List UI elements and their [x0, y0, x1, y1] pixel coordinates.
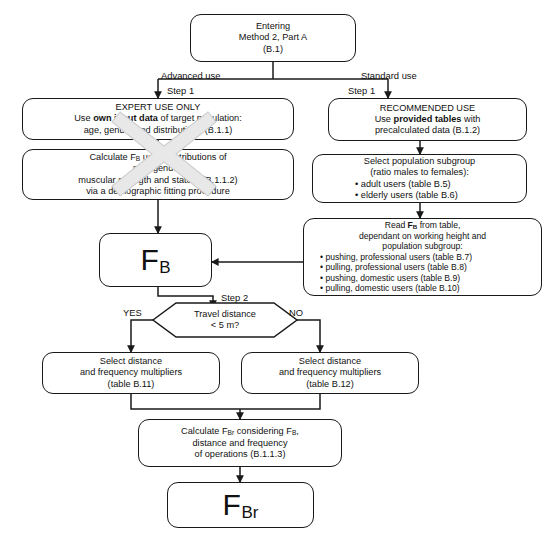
node-expert-title: EXPERT USE ONLY: [116, 102, 201, 113]
edge-no-merge: [240, 394, 320, 409]
node-expert-use: EXPERT USE ONLY Use own input data of ta…: [22, 98, 294, 140]
node-expert-line2-post: of target population:: [158, 113, 242, 123]
node-calculate-fb: Calculate FB using distributions of age,…: [22, 149, 294, 200]
node-no-line1: Select distance: [299, 356, 361, 367]
node-calcfbr-line1-mid: considering F: [234, 426, 292, 436]
node-subgroup-bullet1: • adult users (table B.5): [317, 179, 451, 190]
node-fb-symbol: F: [140, 243, 159, 276]
node-readfb-line2: dependant on working height and: [359, 231, 486, 241]
node-readfb-line1-pre: Read: [385, 220, 408, 230]
node-fb-symbol-wrap: FB: [140, 242, 170, 279]
node-readfb-bullet1: • pushing, professional users (table B.7…: [308, 252, 472, 262]
node-subgroup-bullet2: • elderly users (table B.6): [317, 190, 458, 201]
node-read-fb-table: Read FB from table, dependant on working…: [303, 218, 542, 296]
node-fbr: FBr: [167, 482, 314, 528]
node-recommended-title: RECOMMENDED USE: [380, 103, 475, 114]
node-calcfb-line4: via a demographic fitting procedure: [86, 186, 230, 197]
node-recommended-line2: Use provided tables with: [375, 114, 481, 125]
node-expert-line2-pre: Use: [74, 113, 93, 123]
node-recommended-use: RECOMMENDED USE Use provided tables with…: [328, 98, 527, 141]
node-calcfbr-line2: distance and frequency: [192, 438, 287, 449]
node-expert-line2-bold: own input data: [93, 113, 158, 123]
node-readfb-line1-post: from table,: [417, 220, 460, 230]
node-expert-line3: age, gender and distributions (B.1.1): [84, 125, 233, 136]
node-fbr-subscript: Br: [241, 503, 258, 522]
node-recommended-line3: precalculated data (B.1.2): [375, 125, 480, 136]
node-expert-line2: Use own input data of target population:: [74, 113, 242, 124]
edge-label-yes: YES: [123, 307, 142, 318]
node-no-line2: and frequency multipliers: [279, 367, 381, 378]
node-readfb-line3: population subgroup:: [382, 241, 462, 251]
node-select-multipliers-b12: Select distance and frequency multiplier…: [241, 352, 419, 394]
node-calcfb-line1-pre: Calculate F: [89, 152, 135, 162]
node-select-subgroup: Select population subgroup (ratio males …: [312, 154, 527, 203]
node-yes-line2: and frequency multipliers: [80, 367, 182, 378]
node-yes-line1: Select distance: [100, 356, 162, 367]
edge-label-advanced-use: Advanced use: [161, 70, 220, 81]
decision-hexagon: [153, 303, 297, 337]
node-fbr-symbol: F: [223, 488, 242, 521]
edge-label-no: NO: [289, 307, 303, 318]
node-calculate-fbr: Calculate FBr considering FB, distance a…: [138, 419, 342, 467]
node-calcfb-line1: Calculate FB using distributions of: [89, 152, 226, 164]
node-yes-line3: (table B.11): [108, 379, 155, 390]
node-calcfbr-line3: of operations (B.1.1.3): [195, 449, 286, 460]
flowchart-canvas: Entering Method 2, Part A (B.1) Advanced…: [0, 0, 547, 537]
edge-label-standard-use: Standard use: [361, 70, 417, 81]
node-calcfbr-line1-post: ,: [296, 426, 299, 436]
node-readfb-line1: Read FB from table,: [385, 220, 461, 231]
node-calcfb-line3: muscular strength and stature (B.1.1.2): [78, 175, 237, 186]
node-calcfb-line2: age, gender,: [132, 163, 183, 174]
node-fb: FB: [99, 233, 212, 287]
node-start-line2: Method 2, Part A: [239, 32, 307, 43]
edge-decision-yes: [131, 320, 153, 352]
node-fbr-symbol-wrap: FBr: [223, 487, 259, 524]
edge-label-step1-right: Step 1: [348, 85, 375, 96]
node-recommended-line2-pre: Use: [375, 114, 394, 124]
node-start-line1: Entering: [256, 21, 290, 32]
node-subgroup-line2: (ratio males to females):: [370, 167, 469, 178]
node-start-line3: (B.1): [263, 44, 283, 55]
edge-label-step2: Step 2: [221, 292, 248, 303]
node-readfb-bullet3: • pushing, domestic users (table B.9): [308, 273, 460, 283]
node-start: Entering Method 2, Part A (B.1): [190, 14, 356, 62]
node-readfb-bullet2: • pulling, professional users (table B.8…: [308, 262, 467, 272]
node-fb-subscript: B: [159, 258, 170, 277]
node-recommended-line2-post: with: [461, 114, 480, 124]
node-calcfb-line1-post: using distributions of: [140, 152, 226, 162]
node-calcfbr-line1-pre: Calculate F: [181, 426, 227, 436]
node-calcfbr-line1: Calculate FBr considering FB,: [181, 426, 299, 438]
node-recommended-line2-bold: provided tables: [394, 114, 462, 124]
node-readfb-bullet4: • pulling, domestic users (table B.10): [308, 283, 460, 293]
node-no-line3: (table B.12): [306, 379, 354, 390]
edge-yes-merge: [131, 394, 240, 409]
node-subgroup-line1: Select population subgroup: [364, 156, 475, 167]
edge-label-step1-left: Step 1: [167, 85, 194, 96]
node-select-multipliers-b11: Select distance and frequency multiplier…: [42, 352, 220, 394]
